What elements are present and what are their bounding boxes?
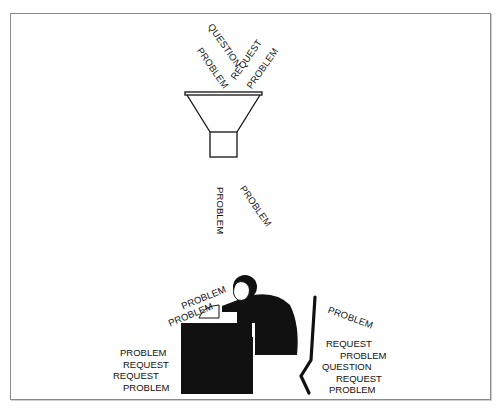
pile-item: REQUEST <box>113 359 169 371</box>
pile-item: REQUEST <box>322 338 386 350</box>
funnel-icon <box>185 92 262 157</box>
pile-item: PROBLEM <box>113 347 169 359</box>
pile-item: QUESTION <box>322 361 386 373</box>
pile-item: REQUEST <box>113 370 169 382</box>
chair-icon <box>301 297 315 393</box>
pile-item: PROBLEM <box>322 350 386 362</box>
desk <box>181 323 253 394</box>
left-pile: PROBLEM REQUEST REQUEST PROBLEM <box>113 347 169 393</box>
right-pile: REQUEST PROBLEM QUESTION REQUEST PROBLEM <box>322 338 386 396</box>
pile-item: PROBLEM <box>322 384 386 396</box>
label-problem-vertical: PROBLEM <box>216 187 226 234</box>
pile-item: REQUEST <box>322 373 386 385</box>
pile-item: PROBLEM <box>113 382 169 394</box>
